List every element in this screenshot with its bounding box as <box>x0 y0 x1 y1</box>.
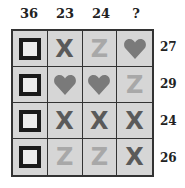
x-icon: X <box>55 109 74 133</box>
square-icon <box>19 110 41 132</box>
grid-cell: X <box>117 103 152 139</box>
x-icon: X <box>125 145 144 169</box>
square-icon <box>19 38 41 60</box>
grid-cell <box>48 67 83 103</box>
x-icon: X <box>55 37 74 61</box>
x-icon: X <box>125 109 144 133</box>
row-label-3: 24 <box>160 114 182 128</box>
x-icon: X <box>90 109 109 133</box>
grid-cell: Z <box>48 139 83 175</box>
grid-cell <box>13 139 48 175</box>
column-label-4-unknown: ? <box>118 6 154 21</box>
heart-icon <box>123 37 147 61</box>
grid-cell <box>117 31 152 67</box>
heart-icon <box>87 73 111 97</box>
grid-cell: X <box>117 139 152 175</box>
row-label-2: 29 <box>160 77 182 91</box>
grid-cell: Z <box>117 67 152 103</box>
grid-cell: X <box>48 103 83 139</box>
heart-icon <box>53 73 77 97</box>
symbol-grid: X Z Z X X X Z Z X <box>11 29 154 177</box>
grid-cell <box>13 31 48 67</box>
row-label-4: 26 <box>160 151 182 165</box>
column-label-1: 36 <box>11 6 47 21</box>
grid-cell: X <box>83 103 118 139</box>
z-icon: Z <box>91 145 108 169</box>
z-icon: Z <box>126 73 143 97</box>
column-label-2: 23 <box>47 6 83 21</box>
square-icon <box>19 146 41 168</box>
row-label-1: 27 <box>160 40 182 54</box>
grid-cell: X <box>48 31 83 67</box>
z-icon: Z <box>56 145 73 169</box>
column-label-3: 24 <box>83 6 119 21</box>
grid-cell <box>13 103 48 139</box>
z-icon: Z <box>91 37 108 61</box>
grid-cell <box>83 67 118 103</box>
grid-cell: Z <box>83 139 118 175</box>
square-icon <box>19 74 41 96</box>
grid-cell <box>13 67 48 103</box>
grid-cell: Z <box>83 31 118 67</box>
